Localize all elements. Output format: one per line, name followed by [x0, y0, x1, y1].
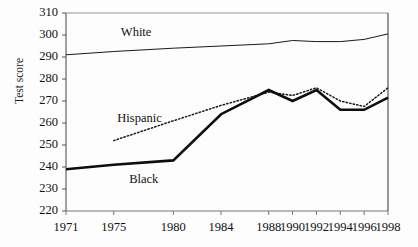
y-tick-label: 300	[24, 27, 58, 42]
series-line-black	[66, 90, 388, 169]
y-tick-label: 220	[24, 203, 58, 218]
y-tick-label: 290	[24, 49, 58, 64]
series-line-white	[66, 34, 388, 55]
series-annotation-black: Black	[129, 172, 158, 187]
x-tick-label: 1984	[201, 220, 241, 235]
y-tick-label: 280	[24, 71, 58, 86]
tick-marks	[62, 13, 388, 215]
line-chart-plot	[0, 0, 418, 247]
x-tick-label: 1980	[153, 220, 193, 235]
data-series-group	[66, 34, 388, 169]
series-annotation-white: White	[121, 25, 152, 40]
y-tick-label: 230	[24, 181, 58, 196]
y-tick-label: 310	[24, 5, 58, 20]
series-annotation-hispanic: Hispanic	[117, 111, 161, 126]
y-tick-label: 240	[24, 159, 58, 174]
y-tick-label: 270	[24, 93, 58, 108]
x-tick-label: 1971	[46, 220, 86, 235]
y-tick-label: 250	[24, 137, 58, 152]
x-tick-label: 1975	[94, 220, 134, 235]
y-tick-label: 260	[24, 115, 58, 130]
x-tick-label: 1998	[368, 220, 408, 235]
chart-figure: Test score 31030029028027026025024023022…	[0, 0, 418, 247]
